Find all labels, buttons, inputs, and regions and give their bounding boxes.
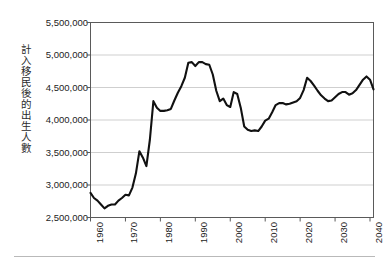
- footer-divider: [14, 256, 375, 257]
- y-axis-tick-marks: [87, 23, 91, 218]
- plot-area: [0, 0, 389, 265]
- chart-figure: 計入移民後的出生人數 2,500,0003,000,0003,500,0004,…: [0, 0, 389, 265]
- gridlines: [91, 55, 374, 185]
- x-axis-tick-marks: [91, 218, 371, 222]
- data-series-line: [91, 62, 374, 208]
